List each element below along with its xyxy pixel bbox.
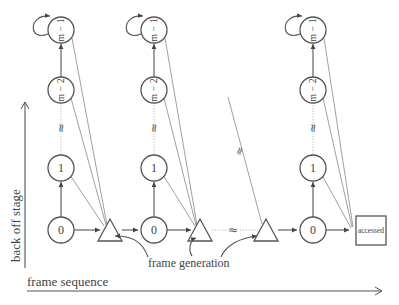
x-axis-label: frame sequence [27,274,108,289]
node-label: m − 2 [148,78,159,101]
edge-m2-to-accessed [323,98,352,227]
self-loop-m1 [285,16,302,36]
node-label: m − 1 [307,18,318,41]
edge-m1-to-accessed [324,38,353,227]
node-label: 1 [58,161,64,175]
y-axis-label: back off stage [8,189,23,262]
edge-m2-to-gen [71,98,106,225]
frame-generation-label: frame generation [148,256,230,270]
edge-m1-to-gen [165,38,197,225]
edge-1-to-gen [163,175,195,226]
node-label: m − 1 [55,18,66,41]
column-2: m − 1 m − 2 ≈ 1 0 [126,16,197,243]
node-label: 1 [310,161,316,175]
y-axis: back off stage [8,102,25,268]
frame-generation-annotation: frame generation [115,236,257,270]
node-label: 0 [58,223,64,237]
gap-symbol-diagonal: ≈ [232,145,247,157]
gap-symbol: ≈ [228,223,238,237]
frame-generation-triangle-2 [188,219,212,241]
node-label: 0 [310,223,316,237]
x-axis: frame sequence [27,274,382,291]
edge-incoming-to-gen3 [228,97,262,224]
node-label: 0 [151,223,157,237]
edge-m2-to-gen [164,98,196,225]
accessed-label: accessed [358,226,384,235]
self-loop-m1 [33,16,50,36]
node-label: m − 2 [55,78,66,101]
ellipsis-symbol: ≈ [54,123,68,133]
column-3: m − 1 m − 2 ≈ 1 0 [285,16,353,243]
annotation-arrow-3 [221,236,257,257]
node-label: 1 [151,161,157,175]
backoff-diagram: back off stage frame sequence m − 1 m − … [0,0,399,305]
node-label: m − 1 [148,18,159,41]
column-1: m − 1 m − 2 ≈ 1 0 [33,16,107,243]
ellipsis-symbol: ≈ [306,123,320,133]
frame-generation-triangle-3 [254,219,278,241]
edge-m1-to-gen [72,38,107,225]
accessed-state: accessed [356,216,386,245]
ellipsis-symbol: ≈ [147,123,161,133]
self-loop-m1 [126,16,143,36]
edge-1-to-accessed [322,175,351,228]
node-label: m − 2 [307,78,318,101]
